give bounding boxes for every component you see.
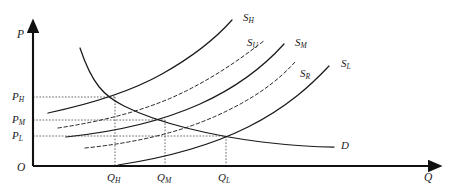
curve-label-SU: SU (247, 37, 258, 48)
curve-label-D: D (341, 140, 349, 151)
curve-group (48, 20, 334, 165)
quantity-tick-QM: QM (157, 172, 171, 183)
curve-label-SR: SR (300, 68, 310, 79)
price-axis-label: P (17, 29, 24, 41)
origin-label: O (17, 162, 25, 174)
quantity-axis-label: Q (424, 172, 432, 184)
curve-SH (48, 20, 232, 113)
curve-label-SH: SH (243, 12, 254, 23)
curve-SU (58, 40, 265, 128)
quantity-tick-QL: QL (218, 172, 230, 183)
price-tick-PL: PL (12, 130, 23, 141)
guide-lines (33, 97, 226, 166)
curve-SR (85, 62, 295, 148)
quantity-tick-QH: QH (107, 172, 120, 183)
chart-canvas: SHSUSMSRSLDPHPMPLQHQMQL P Q O (0, 0, 451, 195)
curve-label-SM: SM (295, 37, 307, 48)
curve-SM (66, 44, 284, 137)
price-tick-PM: PM (12, 114, 25, 125)
diagram-svg (0, 0, 451, 195)
curve-label-SL: SL (341, 58, 351, 69)
price-tick-PH: PH (12, 91, 24, 102)
